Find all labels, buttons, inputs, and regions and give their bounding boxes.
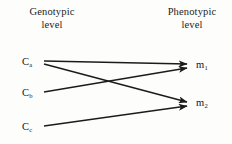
node-genotype-cb: Cb [22, 87, 32, 99]
node-cc-subscript: c [29, 126, 32, 133]
node-m1-base: m [196, 59, 204, 70]
edge-ca-to-m1 [44, 61, 187, 64]
node-m2-subscript: 2 [204, 102, 207, 109]
genotype-phenotype-figure: Genotypic level Phenotypic level Ca Cb C… [0, 0, 232, 144]
node-cb-base: C [22, 87, 29, 98]
node-phenotype-m2: m2 [196, 97, 207, 109]
edge-cb-to-m1 [44, 68, 187, 92]
edge-ca-to-m2 [44, 64, 187, 102]
node-genotype-ca: Ca [22, 56, 32, 68]
node-m2-base: m [196, 97, 204, 108]
node-cc-base: C [22, 121, 29, 132]
node-phenotype-m1: m1 [196, 59, 207, 71]
node-cb-subscript: b [29, 92, 32, 99]
node-m1-subscript: 1 [204, 64, 207, 71]
node-ca-base: C [22, 56, 29, 67]
node-ca-subscript: a [29, 61, 32, 68]
edge-cc-to-m2 [44, 106, 187, 126]
node-genotype-cc: Cc [22, 121, 32, 133]
edge-layer [0, 0, 232, 144]
